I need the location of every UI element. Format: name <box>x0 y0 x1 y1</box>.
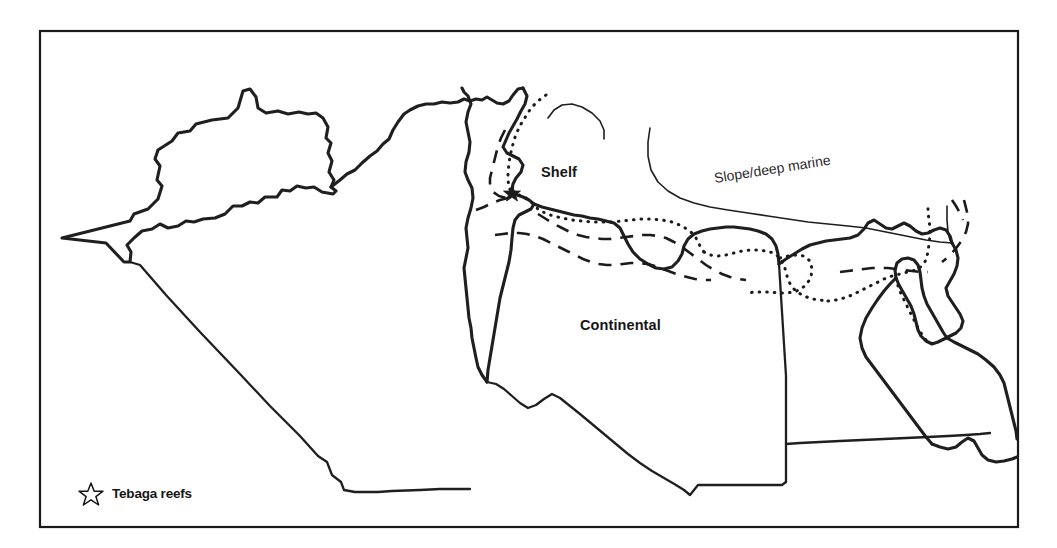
figure-page: Shelf Continental Slope/deep marine Teba… <box>0 0 1057 548</box>
label-shelf: Shelf <box>541 164 577 180</box>
map-canvas: Shelf Continental Slope/deep marine Teba… <box>0 0 1057 548</box>
paleogeographic-map: Shelf Continental Slope/deep marine Teba… <box>0 0 1057 548</box>
map-frame-border <box>40 31 1018 527</box>
label-continental: Continental <box>580 317 661 333</box>
legend-label-text: Tebaga reefs <box>112 486 192 501</box>
